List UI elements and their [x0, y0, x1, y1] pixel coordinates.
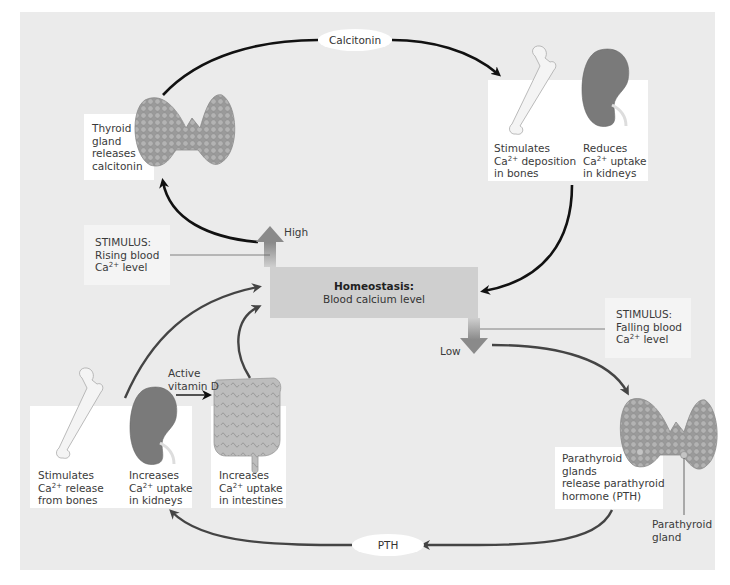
low-arrow [460, 318, 488, 354]
effect-bone-release: Stimulates Ca2+ release from bones [38, 469, 104, 507]
vitamin-d-label: Active vitamin D [168, 367, 219, 392]
effect-bone-deposition: Stimulates Ca2+ deposition in bones [494, 142, 576, 180]
arrow-parathyroid-to-pth [424, 510, 612, 545]
effect-kidney-increase: Increases Ca2+ uptake in kidneys [129, 469, 192, 507]
stimulus-rising-label: STIMULUS: Rising blood Ca2+ level [95, 236, 159, 274]
arrow-thyroid-to-calcitonin [163, 40, 318, 95]
pth-oval: PTH [352, 534, 424, 556]
effect-intestine-increase: Increases Ca2+ uptake in intestines [219, 469, 283, 507]
thyroid-label: Thyroid gland releases calcitonin [92, 122, 143, 172]
arrow-low-to-parathyroid [492, 345, 627, 392]
arrow-calcitonin-to-targets [392, 40, 498, 74]
parathyroid-pointer-label: Parathyroid gland [652, 518, 712, 543]
arrow-pth-to-kidneys [172, 512, 352, 545]
arrow-intestines-to-homeostasis [238, 307, 258, 378]
intestines-icon [214, 378, 281, 473]
calcitonin-oval: Calcitonin [318, 29, 392, 51]
kidney-icon-bottom [130, 387, 177, 464]
kidney-icon-top [582, 49, 629, 126]
low-label: Low [440, 345, 461, 358]
calcitonin-label: Calcitonin [329, 34, 381, 46]
arrow-targets-to-homeostasis [484, 185, 572, 291]
bone-icon-bottom [56, 368, 102, 458]
thyroid-gland-icon [135, 95, 235, 166]
bone-icon-top [509, 46, 555, 134]
high-label: High [284, 226, 308, 239]
stimulus-falling-label: STIMULUS: Falling blood Ca2+ level [616, 308, 682, 346]
effect-kidney-reduce: Reduces Ca2+ uptake in kidneys [583, 142, 646, 180]
arrow-high-to-thyroid [163, 182, 258, 242]
pth-label: PTH [378, 539, 399, 551]
high-arrow [256, 226, 284, 267]
parathyroid-label: Parathyroid glands release parathyroid h… [562, 452, 665, 502]
